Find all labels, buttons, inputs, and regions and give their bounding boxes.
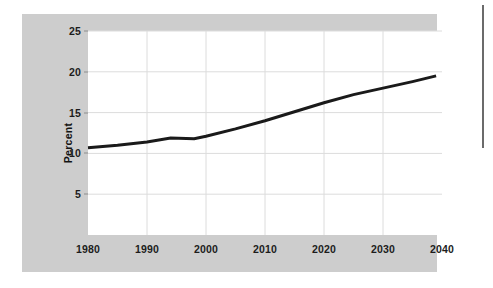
y-tick-mark-15 — [84, 112, 88, 113]
y-tick-label-5: 5 — [75, 188, 81, 200]
x-tick-label-1990: 1990 — [135, 243, 159, 255]
x-tick-label-2010: 2010 — [253, 243, 277, 255]
y-tick-mark-20 — [84, 71, 88, 72]
chart-panel: Percent 510152025 1980199020002010202020… — [22, 14, 437, 272]
plot-area: 510152025 1980199020002010202020302040 — [88, 31, 442, 235]
y-tick-label-20: 20 — [69, 66, 81, 78]
data-line-percent — [88, 31, 442, 235]
page-margin-rule — [482, 5, 484, 148]
chart-figure: Percent 510152025 1980199020002010202020… — [0, 0, 493, 288]
x-tick-label-2000: 2000 — [194, 243, 218, 255]
x-tick-label-2020: 2020 — [312, 243, 336, 255]
y-tick-mark-5 — [84, 194, 88, 195]
y-tick-label-15: 15 — [69, 107, 81, 119]
x-tick-label-1980: 1980 — [76, 243, 100, 255]
y-tick-mark-25 — [84, 31, 88, 32]
x-tick-label-2040: 2040 — [430, 243, 454, 255]
y-tick-label-10: 10 — [69, 147, 81, 159]
y-tick-mark-10 — [84, 153, 88, 154]
x-tick-label-2030: 2030 — [371, 243, 395, 255]
y-tick-label-25: 25 — [69, 25, 81, 37]
